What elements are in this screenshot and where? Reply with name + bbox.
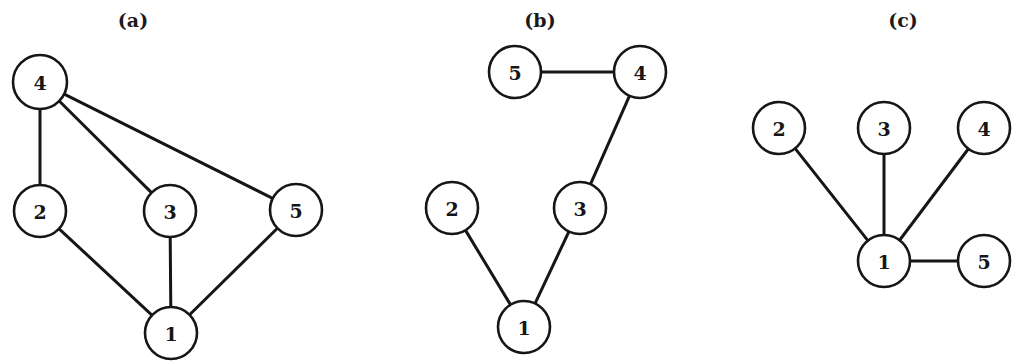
panel-caption-c: (c)	[888, 11, 918, 30]
node-label-3: 3	[163, 201, 176, 223]
graph-node-5: 5	[489, 46, 541, 98]
graph-node-4: 4	[614, 46, 666, 98]
graph-panel-b: 54231	[426, 46, 666, 353]
figure-root: 423515423123415 (a)(b)(c)	[0, 0, 1017, 363]
node-label-1: 1	[164, 323, 177, 345]
node-label-3: 3	[573, 198, 586, 220]
graph-node-4: 4	[958, 102, 1010, 154]
graph-edge-3-1	[170, 236, 171, 308]
node-label-4: 4	[633, 62, 646, 84]
graph-node-5: 5	[958, 235, 1010, 287]
node-label-3: 3	[877, 118, 890, 140]
graph-node-2: 2	[14, 185, 66, 237]
graph-edge-2-1	[58, 228, 152, 316]
graph-panel-c: 23415	[753, 102, 1010, 287]
graph-edge-2-1	[465, 229, 511, 305]
node-label-2: 2	[445, 198, 458, 220]
node-label-5: 5	[289, 200, 302, 222]
graph-edge-5-1	[189, 228, 278, 316]
graph-edge-3-1	[535, 231, 570, 305]
graph-figure-canvas: 423515423123415	[0, 0, 1017, 363]
graph-edge-4-3	[590, 95, 630, 185]
graph-node-1: 1	[858, 235, 910, 287]
node-label-1: 1	[877, 251, 890, 273]
panel-caption-b: (b)	[524, 11, 555, 30]
node-label-1: 1	[517, 317, 530, 339]
graph-panel-a: 42351	[13, 55, 322, 359]
graph-node-3: 3	[858, 102, 910, 154]
node-label-4: 4	[33, 72, 46, 94]
graph-node-3: 3	[554, 182, 606, 234]
graph-edge-1-4	[899, 148, 969, 241]
graph-node-4: 4	[13, 55, 67, 109]
graph-node-5: 5	[270, 184, 322, 236]
node-label-5: 5	[508, 62, 521, 84]
graph-node-3: 3	[144, 185, 196, 237]
panel-caption-a: (a)	[118, 11, 148, 30]
graph-node-1: 1	[145, 307, 197, 359]
graph-node-2: 2	[426, 182, 478, 234]
graph-edge-1-2	[794, 148, 868, 242]
graph-node-1: 1	[498, 301, 550, 353]
edge-group	[465, 72, 630, 306]
node-label-2: 2	[33, 201, 46, 223]
node-label-4: 4	[977, 118, 990, 140]
node-label-2: 2	[772, 118, 785, 140]
graph-node-2: 2	[753, 102, 805, 154]
node-label-5: 5	[977, 251, 990, 273]
graph-edge-4-5	[63, 94, 273, 199]
